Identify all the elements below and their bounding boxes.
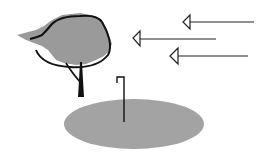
ground-ellipse [64,99,204,149]
arrow-middle-icon [133,31,216,46]
tree-branch [66,63,80,82]
tree-icon [17,13,112,97]
arrow-top-icon [183,15,254,29]
arrow-bottom-icon [170,48,248,64]
diagram-canvas [0,0,269,159]
